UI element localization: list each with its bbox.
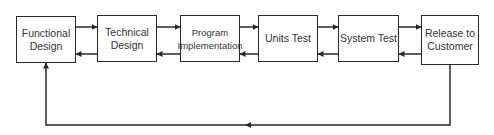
connector-layer (0, 0, 494, 135)
feedback-loop-line (46, 63, 450, 125)
feedback-loop-mid-arrowhead (245, 122, 251, 128)
